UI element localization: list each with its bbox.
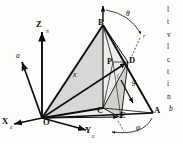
- body-text-line: i: [167, 78, 183, 90]
- line-e-dashed: [118, 121, 124, 131]
- label-point-c: C: [97, 106, 103, 115]
- body-text-line: l: [167, 4, 183, 16]
- label-angle-theta: θ: [126, 10, 130, 18]
- label-axis-x: X: [2, 117, 8, 126]
- label-vector-a: a: [16, 52, 20, 60]
- label-axis-y: Y: [85, 126, 91, 135]
- body-text-line: l: [167, 41, 183, 53]
- body-text-line: t: [167, 16, 183, 28]
- label-axis-z: Z: [36, 20, 42, 29]
- axis-x: [14, 118, 42, 124]
- label-vector-g: g: [132, 78, 136, 86]
- angle-theta-arc: [106, 10, 141, 34]
- label-vector-f: f: [117, 74, 119, 80]
- label-point-o: O: [43, 118, 50, 127]
- label-point-p: P: [107, 57, 112, 66]
- page-body-text: l t v l c t i n: [167, 0, 183, 144]
- geometry-figure: B A C D E P O Z N X E Y E a r x g b f θ …: [0, 0, 183, 144]
- body-text-line: c: [167, 54, 183, 66]
- label-axis-y-subscript: E: [92, 135, 95, 139]
- label-axis-x-subscript: E: [10, 126, 13, 130]
- angle-phi-arc: [112, 118, 152, 133]
- figure-canvas: [0, 0, 183, 144]
- label-point-d: D: [129, 56, 135, 65]
- label-vector-x: x: [73, 71, 76, 79]
- body-text-line: v: [167, 29, 183, 41]
- label-point-a: A: [154, 106, 160, 115]
- label-angle-phi: φ: [136, 124, 140, 132]
- label-axis-z-subscript: N: [46, 30, 49, 34]
- label-point-b: B: [98, 18, 104, 27]
- label-point-e: E: [120, 111, 126, 120]
- body-text-line: n: [167, 91, 183, 103]
- vector-a-arrow: [22, 62, 42, 118]
- label-vector-r: r: [143, 34, 145, 40]
- body-text-line: t: [167, 66, 183, 78]
